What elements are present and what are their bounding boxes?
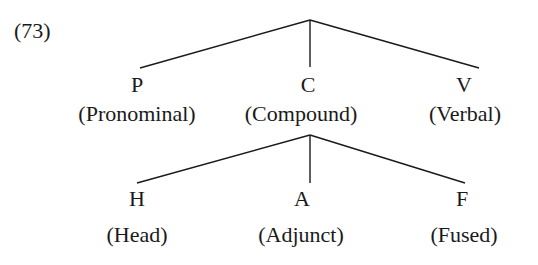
node-h-symbol: H — [129, 188, 145, 210]
node-v-symbol: V — [456, 74, 472, 96]
branch-root-to-p — [140, 20, 310, 68]
node-p-gloss: (Pronominal) — [78, 103, 195, 125]
node-h-gloss: (Head) — [106, 224, 167, 246]
node-c-symbol: C — [301, 74, 316, 96]
node-a-symbol: A — [294, 188, 310, 210]
node-a-gloss: (Adjunct) — [258, 224, 344, 246]
node-p-symbol: P — [131, 74, 143, 96]
node-f-symbol: F — [456, 188, 468, 210]
node-c-gloss: (Compound) — [245, 103, 357, 125]
node-f-gloss: (Fused) — [430, 224, 497, 246]
branch-root-to-v — [310, 20, 479, 68]
branch-c-to-h — [137, 135, 310, 183]
branch-c-to-f — [310, 135, 465, 183]
node-v-gloss: (Verbal) — [429, 103, 501, 125]
